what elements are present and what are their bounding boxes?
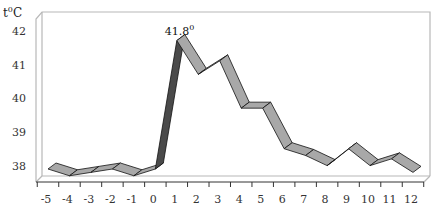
y-tick-label: 39	[12, 126, 26, 139]
y-tick-label: 41	[12, 59, 26, 72]
x-tick-label: 0	[150, 193, 157, 206]
x-tick-label: 2	[193, 193, 200, 206]
x-tick-label: -1	[127, 193, 138, 206]
x-tick-label: 10	[361, 193, 375, 206]
x-tick-label: 6	[279, 193, 286, 206]
y-axis-unit: t0C	[3, 5, 22, 20]
x-axis-labels: -5-4-3-2-10123456789101112	[41, 193, 418, 206]
x-tick-label: 7	[300, 193, 307, 206]
x-tick-label: -2	[105, 193, 116, 206]
x-tick-label: -3	[84, 193, 95, 206]
y-tick-label: 40	[12, 92, 26, 105]
x-tick-label: 11	[383, 193, 397, 206]
x-tick-label: 9	[343, 193, 350, 206]
x-tick-label: 12	[404, 193, 418, 206]
y-tick-label: 38	[12, 160, 26, 173]
x-tick-label: 1	[171, 193, 178, 206]
peak-annotation: 41.80	[165, 23, 195, 38]
y-axis-labels: 3839404142	[12, 25, 26, 173]
x-tick-label: 4	[236, 193, 243, 206]
y-tick-label: 42	[12, 25, 26, 38]
x-axis-ticks	[37, 182, 423, 187]
x-tick-label: -4	[62, 193, 73, 206]
x-tick-label: 8	[322, 193, 329, 206]
temperature-chart: -5-4-3-2-10123456789101112 3839404142 t0…	[0, 0, 444, 210]
x-tick-label: 3	[214, 193, 221, 206]
x-tick-label: 5	[257, 193, 264, 206]
temperature-ribbon-series	[48, 35, 421, 176]
x-tick-label: -5	[41, 193, 52, 206]
